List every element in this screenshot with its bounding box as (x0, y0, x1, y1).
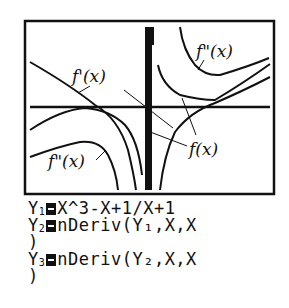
func-expr[interactable]: nDeriv(Y₂,X,X (57, 249, 197, 269)
label-fprime: f'(x) (70, 66, 106, 86)
leader-fpp-top (198, 60, 204, 70)
func-index: 2 (39, 223, 46, 234)
equation-y2[interactable]: Y2nDeriv(Y₁,X,X (28, 217, 197, 234)
selected-equals-icon[interactable] (46, 254, 56, 266)
y-equals-editor: Y1X^3-X+1/X+1 Y2nDeriv(Y₁,X,X ) Y3nDeriv… (28, 200, 197, 285)
y-axis-asymptote (145, 27, 154, 190)
leader-f-right (182, 98, 196, 135)
func-index: 1 (39, 206, 46, 217)
equation-y3[interactable]: Y3nDeriv(Y₂,X,X (28, 251, 197, 268)
func-index: 3 (39, 257, 46, 268)
graph-canvas: f"(x) f'(x) f(x) f"(x) (0, 0, 289, 200)
leader-fprime (78, 86, 90, 93)
curve-f-right (158, 64, 270, 100)
label-f: f(x) (187, 139, 218, 159)
func-expr-cont[interactable]: ) (28, 266, 39, 286)
selected-equals-icon[interactable] (46, 203, 56, 215)
label-fpp-top: f"(x) (194, 41, 233, 61)
label-fpp-bottom: f"(x) (46, 151, 85, 171)
graph-screen: f"(x) f'(x) f(x) f"(x) (0, 0, 289, 200)
func-expr[interactable]: nDeriv(Y₁,X,X (57, 215, 197, 235)
leader-fpp-bottom (96, 150, 106, 160)
selected-equals-icon[interactable] (46, 220, 56, 232)
equation-y3-cont[interactable]: ) (28, 268, 197, 285)
